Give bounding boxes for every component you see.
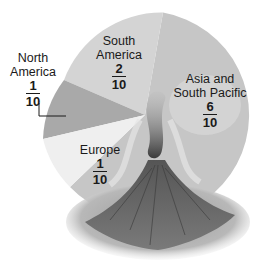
numerator: 1	[93, 157, 107, 172]
fraction-south-america: 2 10	[112, 62, 126, 91]
label-asia-name-1: Asia and	[170, 72, 250, 86]
denominator: 10	[26, 94, 40, 108]
fraction-asia: 6 10	[203, 100, 217, 129]
label-south-america: South America 2 10	[90, 34, 148, 92]
label-europe: Europe 1 10	[76, 143, 124, 187]
label-north-america-name-2: America	[8, 65, 58, 79]
fraction-europe: 1 10	[93, 157, 107, 186]
numerator: 6	[203, 100, 217, 115]
numerator: 1	[26, 79, 40, 94]
numerator: 2	[112, 62, 126, 77]
denominator: 10	[93, 172, 107, 186]
label-asia-south-pacific: Asia and South Pacific 6 10	[170, 72, 250, 130]
label-south-america-name-1: South	[90, 34, 148, 48]
label-south-america-name-2: America	[90, 48, 148, 62]
label-north-america-name-1: North	[8, 51, 58, 65]
label-asia-name-2: South Pacific	[170, 86, 250, 100]
fraction-north-america: 1 10	[26, 79, 40, 108]
denominator: 10	[203, 115, 217, 129]
label-north-america: North America 1 10	[8, 51, 58, 109]
denominator: 10	[112, 77, 126, 91]
label-europe-name: Europe	[76, 143, 124, 157]
